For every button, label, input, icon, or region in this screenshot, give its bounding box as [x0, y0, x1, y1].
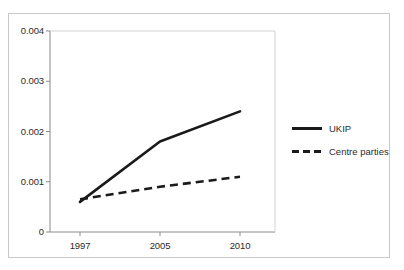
y-axis-ticks — [46, 31, 50, 232]
x-tick-label: 2010 — [215, 240, 265, 251]
x-tick-label: 2005 — [135, 240, 185, 251]
legend-label-centre-parties: Centre parties — [329, 146, 389, 157]
y-tick-label: 0.003 — [0, 75, 44, 86]
y-tick-label: 0.001 — [0, 176, 44, 187]
legend-swatch-solid-icon — [292, 123, 322, 134]
y-tick-label: 0.004 — [0, 25, 44, 36]
x-tick-label: 1997 — [55, 240, 105, 251]
legend-swatch-dashed-icon — [292, 146, 322, 157]
y-tick-label: 0 — [0, 226, 44, 237]
axis-group — [46, 31, 275, 236]
legend-label-ukip: UKIP — [329, 123, 351, 134]
y-tick-label: 0.002 — [0, 126, 44, 137]
x-axis-ticks — [80, 232, 240, 236]
legend-item-centre-parties: Centre parties — [292, 140, 400, 163]
chart-legend: UKIP Centre parties — [292, 117, 400, 163]
legend-item-ukip: UKIP — [292, 117, 400, 140]
data-series-group — [80, 111, 240, 201]
series-line-centre-parties — [80, 177, 240, 200]
series-line-ukip — [80, 111, 240, 201]
